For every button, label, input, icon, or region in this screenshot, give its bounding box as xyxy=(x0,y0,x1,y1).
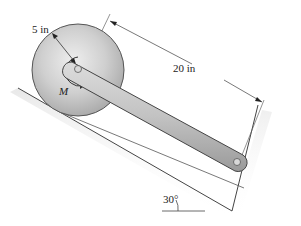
rod-length-label: 20 in xyxy=(173,62,196,74)
pin-disk-center xyxy=(75,66,82,73)
diagram: 5 in 20 in M 30° xyxy=(0,0,301,226)
rod xyxy=(63,62,247,172)
disk-radius-label: 5 in xyxy=(32,23,49,35)
moment-label: M xyxy=(58,85,69,97)
pin-rod-end xyxy=(234,159,241,166)
incline-angle-label: 30° xyxy=(163,193,178,205)
